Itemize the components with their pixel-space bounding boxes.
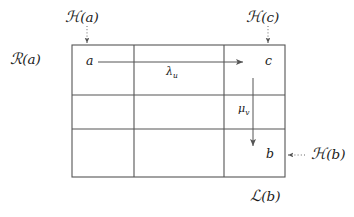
cell-label-b: b [266, 148, 274, 161]
lambda-symbol: λ [166, 65, 173, 78]
h-of-b-symbol: ℋ [311, 145, 326, 163]
h-of-b-label: ℋ(b) [311, 147, 345, 163]
r-of-a-symbol: ℛ [10, 50, 22, 68]
h-of-a-argument: (a) [80, 9, 99, 25]
mu-subscript: v [245, 108, 249, 117]
h-of-a-label: ℋ(a) [65, 10, 99, 26]
diagram-figure: ℋ(a) ℋ(c) ℛ(a) ℋ(b) ℒ(b) a c b λu μv [0, 0, 354, 217]
r-of-a-label: ℛ(a) [10, 52, 41, 68]
h-of-b-argument: (b) [326, 146, 345, 162]
r-of-a-argument: (a) [22, 51, 41, 67]
h-of-c-label: ℋ(c) [246, 10, 279, 26]
l-of-b-argument: (b) [261, 188, 280, 204]
l-of-b-symbol: ℒ [250, 187, 261, 205]
h-of-a-symbol: ℋ [65, 8, 80, 26]
diagram-canvas [0, 0, 354, 217]
mu-v-label: μv [238, 103, 249, 117]
cell-label-c: c [265, 55, 272, 68]
cell-label-a: a [86, 55, 93, 68]
h-of-c-symbol: ℋ [246, 8, 261, 26]
h-of-c-argument: (c) [261, 9, 279, 25]
lambda-u-label: λu [166, 66, 178, 80]
l-of-b-label: ℒ(b) [250, 189, 280, 205]
lambda-subscript: u [173, 71, 178, 80]
